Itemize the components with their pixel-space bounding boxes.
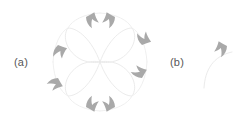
panel-label-b: (b): [170, 57, 184, 68]
figure-graphic: [0, 0, 247, 127]
rose-petals: [65, 28, 134, 96]
figure-container: (a) (b): [0, 0, 247, 127]
petal-lower-right: [100, 61, 135, 96]
panel-b-graphic: [204, 39, 232, 88]
unit-arc: [204, 52, 232, 88]
petal-lower-left: [65, 61, 100, 96]
petal-upper-right: [100, 28, 135, 63]
panel-a-graphic: [45, 10, 154, 114]
panel-label-a: (a): [14, 57, 28, 68]
petal-upper-left: [65, 28, 100, 63]
